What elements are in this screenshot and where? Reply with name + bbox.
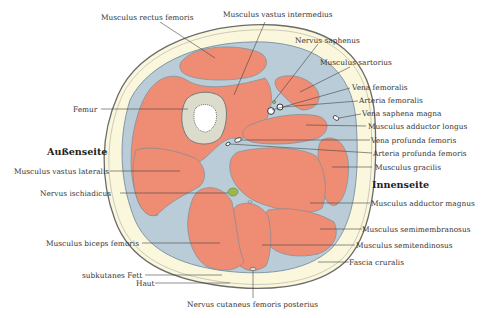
label-haut: Haut [136, 279, 155, 288]
vena-femoralis [268, 108, 275, 115]
label-adductor-magnus: Musculus adductor magnus [371, 199, 475, 208]
label-vena-saphena-magna: Vena saphena magna [362, 109, 441, 118]
label-subkutanes-fett: subkutanes Fett [82, 271, 142, 280]
label-cutaneus-posterior: Nervus cutaneus femoris posterius [187, 300, 318, 309]
label-nervus-saphenus: Nervus saphenus [295, 36, 360, 45]
label-rectus-femoris: Musculus rectus femoris [101, 13, 193, 22]
label-vena-femoralis: Vena femoralis [352, 83, 408, 92]
small-vessel [248, 201, 252, 203]
label-vastus-lateralis: Musculus vastus lateralis [14, 167, 109, 176]
label-aussenseite: Außenseite [47, 146, 107, 157]
label-vena-profunda: Vena profunda femoris [371, 136, 456, 145]
label-vastus-intermedius: Musculus vastus intermedius [223, 10, 333, 19]
label-semitendinosus: Musculus semitendinosus [356, 241, 453, 250]
label-biceps-femoris: Musculus biceps femoris [46, 239, 139, 248]
nervus-ischiadicus [228, 188, 238, 196]
label-fascia-cruralis: Fascia cruralis [349, 258, 404, 267]
label-femur: Femur [73, 105, 97, 114]
label-arteria-profunda: Arteria profunda femoris [373, 149, 467, 158]
label-ischiadicus: Nervus ischiadicus [40, 189, 111, 198]
label-semimembranosus: Musculus semimembranosus [362, 225, 470, 234]
thigh-cross-section-diagram [0, 0, 489, 318]
label-innenseite: Innenseite [372, 179, 429, 190]
label-adductor-longus: Musculus adductor longus [368, 122, 467, 131]
label-gracilis: Musculus gracilis [375, 163, 441, 172]
label-sartorius: Musculus sartorius [320, 58, 392, 67]
label-arteria-femoralis: Arteria femoralis [359, 96, 423, 105]
nervus-cutaneus-dot [250, 267, 256, 270]
